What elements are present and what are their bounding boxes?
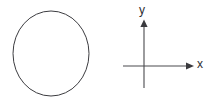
x-axis-arrowhead-icon [186, 62, 194, 69]
figure-canvas: y x [0, 0, 212, 105]
y-axis-arrowhead-icon [140, 20, 147, 28]
circle-outline [13, 11, 89, 96]
x-axis-label: x [197, 58, 203, 70]
diagram-svg [0, 0, 212, 105]
y-axis-label: y [139, 4, 145, 16]
